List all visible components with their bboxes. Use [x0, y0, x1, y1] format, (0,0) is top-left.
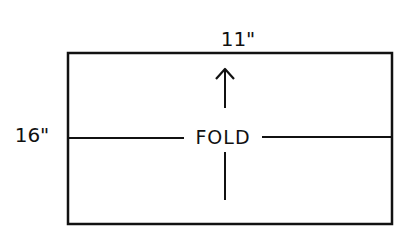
fold-label: FOLD: [195, 126, 250, 148]
width-dimension-label: 11": [221, 27, 256, 51]
height-dimension-label: 16": [15, 123, 50, 147]
fold-diagram: FOLD 11" 16": [0, 0, 411, 243]
arrow-up-icon: [216, 69, 234, 108]
